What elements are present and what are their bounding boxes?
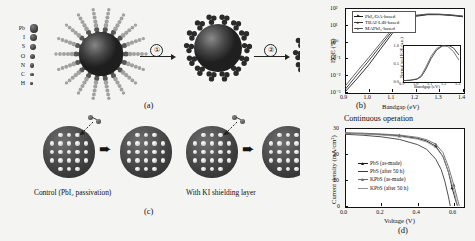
panel-d-header: Continuous operation: [344, 114, 413, 123]
inset-xlabel: Bandgap (eV): [414, 84, 440, 89]
atom-legend-row: H: [12, 79, 56, 88]
atom-legend-label: N: [12, 61, 25, 70]
axis-tick-label: 1.0: [394, 43, 399, 48]
legend-marker: ▸: [357, 20, 360, 25]
axis-tick: [345, 206, 348, 207]
atom-legend-dot: [30, 54, 35, 59]
legend-label: MAPbI₃-based: [365, 25, 395, 32]
axis-tick-label: 0.0: [394, 79, 399, 84]
axis-tick: [345, 180, 348, 181]
axis-tick: [345, 75, 348, 76]
inset-ylabel: Normalized EQE (a.u.): [399, 37, 404, 78]
atom-legend-label: I: [12, 33, 25, 42]
atom-legend-label: H: [12, 79, 25, 88]
axis-tick: [454, 203, 455, 206]
atom-legend-row: N: [12, 61, 56, 70]
axis-tick: [381, 203, 382, 206]
panel-c: ➨ ➨ Control (PbI₂ passivation) With KI s…: [0, 112, 300, 241]
atom-legend-label: O: [12, 52, 25, 61]
atom-legend: PbISONCH: [12, 24, 56, 96]
atom-legend-dot: [30, 44, 36, 50]
axis-tick-label: 0.0: [340, 209, 347, 215]
atom-legend-row: S: [12, 42, 56, 51]
panel-b-tag: (b): [356, 100, 366, 110]
panel-d-tag: (d): [398, 225, 408, 235]
attack-arrow-control: [76, 120, 96, 138]
axis-tick-label: 1.4: [458, 94, 465, 100]
lattice-control-after: [120, 126, 172, 178]
legend-marker: ▸: [357, 26, 360, 31]
axis-tick-label: 0.4: [413, 209, 420, 215]
atom-legend-dot: [30, 82, 33, 85]
arrow-1-line: [140, 56, 172, 57]
transition-arrow-control: ➨: [99, 142, 112, 157]
axis-tick-label: 1.2: [411, 94, 418, 100]
axis-tick: [418, 203, 419, 206]
axis-tick-label: 10¹: [330, 22, 338, 28]
legend-swatch: [358, 171, 368, 172]
axis-tick: [439, 89, 440, 92]
atom-legend-dot: [30, 24, 38, 32]
axis-tick-label: 10⁻³: [330, 89, 341, 95]
nanocrystal-ligand-shell: [54, 4, 148, 104]
axis-tick-label: 0: [337, 203, 340, 209]
legend-label: KPbS (after 50 h): [370, 185, 408, 192]
atom-legend-dot: [30, 73, 34, 77]
axis-tick-label: 1.3: [434, 94, 441, 100]
axis-tick: [345, 128, 348, 129]
legend-swatch: [358, 188, 368, 189]
panel-c-left-label: Control (PbI₂ passivation): [34, 188, 111, 197]
axis-tick: [345, 25, 348, 26]
panel-a-tag: (a): [144, 100, 153, 110]
atom-legend-row: C: [12, 70, 56, 79]
arrow-2-line: [254, 56, 286, 57]
axis-tick: [369, 89, 370, 92]
axis-tick: [345, 92, 348, 93]
transition-arrow-ki: ➨: [242, 142, 255, 157]
axis-tick: [463, 89, 464, 92]
axis-tick: [416, 89, 417, 92]
atom-legend-label: C: [12, 70, 25, 79]
legend-marker: ▴: [361, 161, 364, 166]
axis-tick-label: 10²: [330, 5, 338, 11]
panel-c-right-label: With KI shielding layer: [186, 188, 256, 197]
axis-tick-label: 1.2: [441, 81, 446, 86]
atom-legend-dot: [30, 63, 34, 67]
panel-d-xlabel: Voltage (V): [384, 217, 415, 224]
axis-tick: [392, 89, 393, 92]
figure-root: PbISONCH ①: [0, 0, 475, 241]
axis-tick-label: 30: [333, 125, 339, 131]
legend-marker: ▸: [357, 13, 360, 18]
panel-d-chart: Continuous operation ▴PbS (as-made)PbS (…: [300, 116, 475, 241]
axis-tick: [345, 154, 348, 155]
panel-a: PbISONCH ①: [0, 0, 300, 112]
axis-tick-label: 1.3: [455, 81, 460, 86]
axis-tick: [345, 8, 348, 9]
panel-b-xlabel: Bandgap (eV): [382, 103, 419, 110]
legend-label: PbS (as-made): [370, 160, 402, 167]
panel-c-tag: (c): [144, 206, 153, 216]
atom-legend-row: I: [12, 33, 56, 42]
axis-tick: [345, 58, 348, 59]
atom-legend-label: Pb: [12, 24, 25, 33]
axis-tick: [345, 42, 348, 43]
legend-marker: ▴: [361, 177, 364, 182]
axis-tick-label: 1.1: [387, 94, 394, 100]
axis-tick-label: 0.9: [399, 81, 404, 86]
atom-legend-row: Pb: [12, 24, 56, 33]
legend-label: PbS (after 50 h): [370, 168, 404, 175]
nanocrystal-halide-capped: [176, 2, 260, 106]
panel-b-chart: ▸PbI₂/OA-based▸TBAI-LiB-based▸MAPbI₃-bas…: [300, 0, 475, 116]
panel-b-ylabel: EQE (%): [329, 39, 336, 63]
axis-tick-label: 0.6: [449, 209, 456, 215]
axis-tick-label: 0.2: [376, 209, 383, 215]
atom-legend-label: S: [12, 42, 25, 51]
axis-tick-label: 0.9: [340, 94, 347, 100]
legend-label: KPbS (as-made): [370, 176, 405, 183]
axis-tick-label: 0.5: [394, 61, 399, 66]
axis-tick-label: 10⁻²: [330, 72, 341, 78]
atom-legend-dot: [30, 34, 37, 41]
panel-d-ylabel: Current density (mA/cm²): [330, 135, 337, 204]
attack-arrow-ki: [220, 120, 240, 138]
atom-legend-row: O: [12, 52, 56, 61]
